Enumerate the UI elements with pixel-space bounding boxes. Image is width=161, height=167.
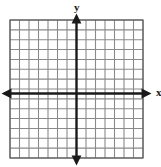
x-axis-label: x: [156, 87, 161, 98]
coordinate-plane-figure: y x: [0, 0, 161, 167]
x-axis-arrow-left: [2, 89, 12, 99]
y-axis-arrow-up: [72, 14, 82, 24]
coordinate-grid-svg: [0, 0, 161, 167]
x-axis-arrow-right: [142, 89, 152, 99]
y-axis-arrow-down: [72, 156, 82, 166]
y-axis-label: y: [74, 2, 80, 13]
